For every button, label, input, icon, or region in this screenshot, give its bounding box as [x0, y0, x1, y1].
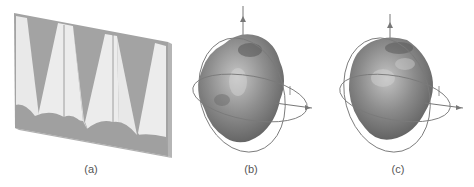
panel-c: (c) — [327, 0, 474, 160]
caption-b: (b) — [244, 163, 257, 175]
radiation-pattern-b — [180, 0, 320, 160]
panel-a: (a) — [0, 0, 175, 160]
radiation-pattern-c — [327, 0, 474, 160]
absorber-array-illustration — [0, 0, 175, 160]
caption-c: (c) — [392, 163, 405, 175]
caption-a: (a) — [84, 163, 97, 175]
panel-b: (b) — [180, 0, 320, 160]
